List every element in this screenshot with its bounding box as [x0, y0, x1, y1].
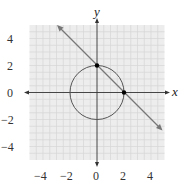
- graph-canvas: y x 4 2 0 −2 −4 −4 −2 0 2 4: [0, 0, 187, 189]
- intersection-point-0-2: [95, 63, 99, 67]
- y-tick-2: 2: [7, 59, 13, 73]
- y-axis-arrow-down-icon: [95, 162, 99, 167]
- intersection-point-2-0: [122, 90, 126, 94]
- y-tick-4: 4: [7, 32, 13, 46]
- x-tick-neg2: −2: [60, 169, 73, 183]
- x-axis-label: x: [171, 84, 178, 99]
- x-tick-2: 2: [120, 169, 126, 183]
- y-axis-label: y: [92, 4, 100, 19]
- y-tick-neg2: −2: [1, 113, 14, 127]
- x-tick-4: 4: [147, 169, 153, 183]
- y-tick-neg4: −4: [1, 140, 14, 154]
- x-axis-arrow-right-icon: [165, 91, 170, 95]
- x-tick-0: 0: [93, 169, 99, 183]
- x-axis-arrow-left-icon: [24, 91, 29, 95]
- y-tick-0: 0: [7, 86, 13, 100]
- x-tick-neg4: −4: [34, 169, 47, 183]
